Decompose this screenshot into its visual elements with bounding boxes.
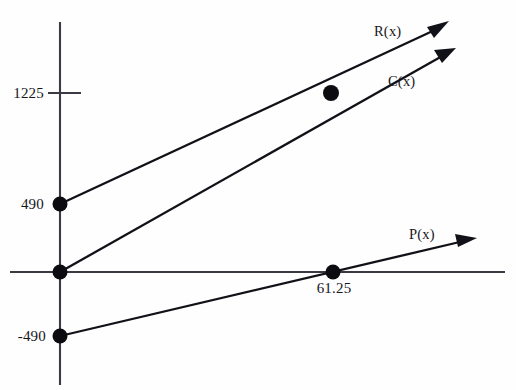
curve-arrowhead-profit <box>455 234 477 247</box>
curve-label-cost: C(x) <box>388 74 415 89</box>
curve-label-profit: P(x) <box>409 227 435 242</box>
curve-line-profit <box>60 241 464 336</box>
point-marker-y-neg490 <box>53 329 68 344</box>
y-axis-tick-label-1225: 1225 <box>0 86 44 101</box>
point-marker-x-6125 <box>326 265 341 280</box>
y-intercept-label-neg490: -490 <box>0 329 46 344</box>
curve-line-cost <box>60 55 444 272</box>
x-intercept-label-6125: 61.25 <box>304 281 364 296</box>
y-intercept-label-490: 490 <box>0 197 44 212</box>
curve-line-revenue <box>60 29 437 204</box>
chart-plot-area <box>0 0 516 390</box>
curve-arrowhead-cost <box>434 48 456 63</box>
curve-arrowhead-revenue <box>427 21 449 38</box>
curve-label-revenue: R(x) <box>374 24 401 39</box>
point-marker-y-490 <box>53 197 68 212</box>
break-even-chart: 1225 490 -490 61.25 R(x) C(x) P(x) <box>0 0 516 390</box>
point-marker-origin <box>53 265 68 280</box>
point-marker-break-even <box>323 85 339 101</box>
